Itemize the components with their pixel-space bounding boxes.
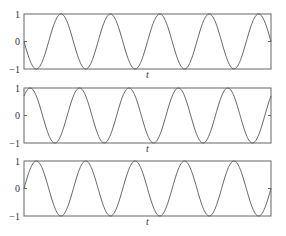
x-axis-label: t [146, 143, 149, 154]
chart-figure: 10−1t10−1t10−1t [0, 0, 286, 236]
y-tick-label: −1 [9, 138, 20, 149]
y-tick-label: 0 [15, 36, 20, 47]
data-line [24, 14, 271, 69]
y-tick-label: −1 [9, 64, 20, 75]
y-tick-label: 1 [15, 83, 20, 94]
y-tick-label: 1 [15, 156, 20, 167]
x-axis-label: t [146, 69, 149, 80]
subplot-2: 10−1t [9, 83, 271, 155]
y-tick-label: 0 [15, 110, 20, 121]
subplot-1: 10−1t [9, 9, 271, 81]
data-line [24, 88, 271, 143]
x-axis-label: t [146, 216, 149, 227]
data-line [24, 161, 271, 216]
y-tick-label: 1 [15, 9, 20, 20]
y-tick-label: −1 [9, 211, 20, 222]
y-tick-label: 0 [15, 183, 20, 194]
subplot-3: 10−1t [9, 156, 271, 228]
